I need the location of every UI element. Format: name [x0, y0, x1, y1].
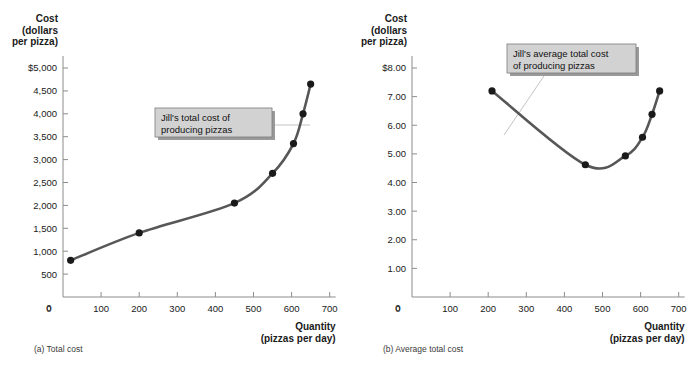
y-axis-title-line: (dollars [371, 25, 408, 36]
x-tick-label: 100 [93, 303, 109, 314]
y-tick-label: 500 [41, 269, 57, 280]
data-point [622, 152, 629, 159]
data-point [582, 161, 589, 168]
y-tick-label: 4.00 [388, 177, 407, 188]
y-tick-label: 2,500 [33, 177, 57, 188]
x-axis-title-line: Quantity [644, 321, 685, 332]
x-axis-title-line: (pizzas per day) [261, 333, 336, 344]
y-tick-label: 1,000 [33, 246, 57, 257]
callout-average-total-cost: Jill's average total costof producing pi… [507, 44, 639, 76]
y-tick-label: 1,500 [33, 223, 57, 234]
x-tick-label: 100 [442, 303, 458, 314]
y-axis-title-line: Cost [36, 13, 59, 24]
total-cost-chart: Cost(dollarsper pizza)$5,0004,5004,0003,… [0, 0, 349, 369]
data-point [290, 140, 297, 147]
x-tick-label: 500 [595, 303, 611, 314]
y-tick-label: 1.00 [388, 263, 407, 274]
x-tick-label: 0 [46, 303, 51, 314]
data-point [136, 229, 143, 236]
data-point [67, 257, 74, 264]
panel-total-cost: Cost(dollarsper pizza)$5,0004,5004,0003,… [0, 0, 349, 369]
x-axis-title-line: Quantity [295, 321, 336, 332]
panel-caption: (b) Average total cost [383, 344, 464, 354]
cost-curve [492, 91, 660, 169]
x-tick-label: 200 [131, 303, 147, 314]
callout-text-line: of producing pizzas [513, 60, 595, 71]
y-tick-label: $8.00 [382, 62, 406, 73]
x-tick-label: 600 [633, 303, 649, 314]
y-axis-title-line: per pizza) [12, 36, 58, 47]
y-tick-label: 7.00 [388, 91, 407, 102]
y-axis-title-line: per pizza) [361, 36, 407, 47]
x-tick-label: 400 [556, 303, 572, 314]
y-tick-label: 4,000 [33, 108, 57, 119]
data-point [307, 80, 314, 87]
data-point [231, 200, 238, 207]
y-tick-label: $5,000 [28, 62, 57, 73]
x-axis-title-line: (pizzas per day) [610, 333, 685, 344]
x-tick-label: 400 [207, 303, 223, 314]
y-tick-label: 2.00 [388, 234, 407, 245]
callout-total-cost: Jill's total cost ofproducing pizzas [155, 108, 275, 140]
callout-text-line: Jill's total cost of [161, 112, 230, 123]
y-tick-label: 3,000 [33, 154, 57, 165]
callout-text-line: Jill's average total cost [513, 48, 609, 59]
y-tick-label: 3.00 [388, 206, 407, 217]
x-tick-label: 700 [671, 303, 687, 314]
y-tick-label: 4,500 [33, 85, 57, 96]
x-tick-label: 600 [284, 303, 300, 314]
panel-caption: (a) Total cost [34, 344, 83, 354]
data-point [639, 134, 646, 141]
x-tick-label: 200 [480, 303, 496, 314]
data-point [269, 170, 276, 177]
panel-average-total-cost: Cost(dollarsper pizza)$8.007.006.005.004… [349, 0, 698, 369]
y-tick-label: 6.00 [388, 120, 407, 131]
data-point [299, 110, 306, 117]
callout-leader-line [504, 73, 546, 135]
data-point [648, 111, 655, 118]
x-tick-label: 300 [169, 303, 185, 314]
y-tick-label: 2,000 [33, 200, 57, 211]
y-axis-title-line: Cost [385, 13, 408, 24]
data-point [656, 87, 663, 94]
average-total-cost-chart: Cost(dollarsper pizza)$8.007.006.005.004… [349, 0, 698, 369]
data-point [488, 87, 495, 94]
y-tick-label: 5.00 [388, 148, 407, 159]
x-tick-label: 300 [518, 303, 534, 314]
x-tick-label: 700 [322, 303, 338, 314]
callout-text-line: producing pizzas [161, 124, 233, 135]
cost-curves-figure: Cost(dollarsper pizza)$5,0004,5004,0003,… [0, 0, 699, 369]
x-tick-label: 500 [246, 303, 262, 314]
y-axis-title-line: (dollars [22, 25, 59, 36]
x-tick-label: 0 [395, 303, 400, 314]
y-tick-label: 3,500 [33, 131, 57, 142]
